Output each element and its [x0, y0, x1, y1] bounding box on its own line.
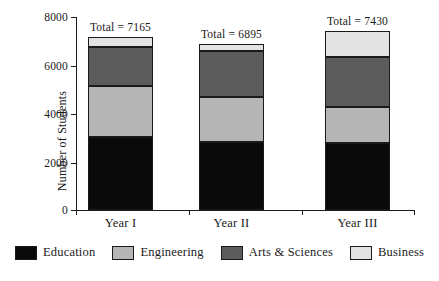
y-tick-2000 [71, 163, 76, 164]
bar-1[interactable]: Total = 7165 [88, 37, 153, 210]
legend-label: Education [43, 245, 95, 260]
bar-segment-business[interactable] [325, 31, 390, 57]
legend-item-business[interactable]: Business [350, 245, 424, 260]
bar-segment-arts-sciences[interactable] [88, 47, 153, 86]
chart-legend: EducationEngineeringArts & SciencesBusin… [0, 245, 439, 260]
legend-item-arts-sciences[interactable]: Arts & Sciences [221, 245, 333, 260]
y-tick-8000 [71, 17, 76, 18]
bar-segment-education[interactable] [199, 142, 264, 210]
bar-segment-arts-sciences[interactable] [325, 57, 390, 107]
bar-total-label-2: Total = 6895 [201, 28, 262, 40]
y-tick-label-2000: 2000 [44, 157, 68, 169]
x-axis-label-2: Year II [214, 216, 250, 231]
x-tick-2 [302, 210, 303, 215]
legend-swatch-icon [15, 246, 37, 260]
bar-segment-business[interactable] [199, 44, 264, 51]
plot-area: 8000 6000 4000 2000 0 Total = 7165Total … [76, 17, 415, 211]
stacked-bar-chart: Number of Students 8000 6000 4000 2000 0… [0, 0, 439, 281]
y-tick-label-4000: 4000 [44, 108, 68, 120]
y-tick-6000 [71, 66, 76, 67]
y-tick-label-6000: 6000 [44, 60, 68, 72]
bar-total-label-3: Total = 7430 [327, 15, 388, 27]
y-axis-title: Number of Students [55, 90, 70, 190]
x-tick-end [414, 210, 415, 215]
x-axis-line [76, 210, 415, 211]
x-tick-start [76, 210, 77, 215]
bar-segment-arts-sciences[interactable] [199, 51, 264, 97]
bar-total-label-1: Total = 7165 [90, 21, 151, 33]
legend-item-engineering[interactable]: Engineering [112, 245, 203, 260]
x-axis-label-3: Year III [337, 216, 377, 231]
bar-segment-education[interactable] [325, 143, 390, 210]
legend-swatch-icon [221, 246, 243, 260]
legend-label: Engineering [140, 245, 203, 260]
y-axis-line [76, 17, 77, 211]
bar-segment-engineering[interactable] [199, 97, 264, 143]
bar-segment-engineering[interactable] [325, 107, 390, 144]
bar-2[interactable]: Total = 6895 [199, 44, 264, 210]
y-tick-4000 [71, 114, 76, 115]
y-tick-label-0: 0 [62, 204, 68, 216]
bar-segment-engineering[interactable] [88, 86, 153, 138]
bar-3[interactable]: Total = 7430 [325, 31, 390, 210]
x-axis-label-1: Year I [105, 216, 137, 231]
legend-swatch-icon [112, 246, 134, 260]
y-tick-label-8000: 8000 [44, 11, 68, 23]
legend-label: Business [378, 245, 424, 260]
legend-item-education[interactable]: Education [15, 245, 95, 260]
bar-segment-business[interactable] [88, 37, 153, 47]
legend-label: Arts & Sciences [249, 245, 333, 260]
x-tick-1 [189, 210, 190, 215]
bar-segment-education[interactable] [88, 137, 153, 210]
legend-swatch-icon [350, 246, 372, 260]
